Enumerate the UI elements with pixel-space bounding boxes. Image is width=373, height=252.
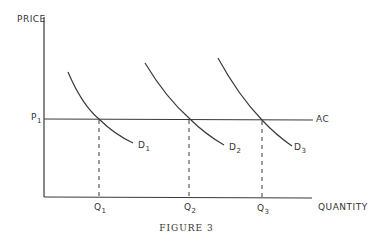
demand-curve-d1 [68,72,133,143]
x-axis-label: QUANTITY [318,203,368,212]
q1-label: Q1 [94,203,107,212]
y-axis-label: PRICE [17,15,46,24]
price-level-label: P1 [31,113,42,122]
figure-caption: FIGURE 3 [0,223,373,233]
demand-curve-d2 [145,63,224,145]
diagram-canvas [0,0,373,252]
q3-label: Q3 [257,204,270,213]
x-axis [44,197,312,198]
ac-label: AC [316,115,329,124]
ac-line [44,119,313,120]
demand-curve-d3 [218,58,292,146]
d3-label: D3 [294,143,306,152]
d1-label: D1 [138,141,150,150]
d2-label: D2 [229,143,241,152]
q2-label: Q2 [184,203,197,212]
